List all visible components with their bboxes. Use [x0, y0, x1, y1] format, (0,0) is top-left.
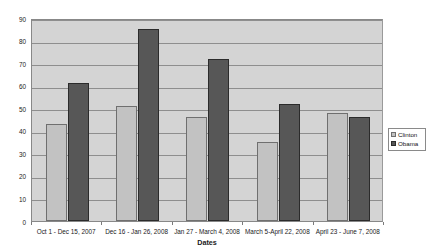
x-axis-tick-mark: [313, 222, 314, 225]
bar-chart: Percentage of Positive Coverage 90807060…: [0, 0, 427, 251]
y-axis-tick-label: 40: [19, 128, 26, 135]
y-axis-tick-label: 60: [19, 83, 26, 90]
x-axis-tick-mark: [101, 222, 102, 225]
legend-item-label: Clinton: [398, 131, 417, 138]
bar-group: [32, 20, 102, 221]
bar: [46, 124, 67, 221]
bar: [257, 142, 278, 221]
bar: [208, 59, 229, 221]
bar-group: [102, 20, 172, 221]
x-axis-title: Dates: [31, 238, 383, 247]
bar: [186, 117, 207, 221]
x-axis-category-label: Dec 16 - Jan 26, 2008: [101, 227, 171, 236]
bar-group: [243, 20, 313, 221]
y-axis-tick-labels: 9080706050403020100: [0, 0, 28, 251]
y-axis-tick-label: 10: [19, 196, 26, 203]
y-axis-tick-label: 20: [19, 173, 26, 180]
x-axis-tick-mark: [383, 222, 384, 225]
bar: [68, 83, 89, 221]
chart-legend: ClintonObama: [388, 128, 426, 151]
y-axis-tick-label: 90: [19, 16, 26, 23]
x-axis-category-label: March 5-April 22, 2008: [242, 227, 312, 236]
y-axis-tick-label: 70: [19, 61, 26, 68]
cropped-title-remnant: [0, 0, 427, 6]
legend-swatch-icon: [391, 141, 396, 146]
bar-group: [314, 20, 384, 221]
x-axis-category-label: April 23 - June 7, 2008: [313, 227, 383, 236]
y-axis-tick-label: 50: [19, 106, 26, 113]
x-axis-category-label: Oct 1 - Dec 15, 2007: [31, 227, 101, 236]
y-axis-tick-label: 30: [19, 151, 26, 158]
plot-area: [31, 19, 383, 222]
bar: [279, 104, 300, 221]
bar: [327, 113, 348, 221]
legend-item: Clinton: [391, 130, 423, 139]
bars-layer: [32, 20, 382, 221]
x-axis-tick-mark: [172, 222, 173, 225]
bar: [116, 106, 137, 221]
legend-item: Obama: [391, 139, 423, 148]
bar-group: [173, 20, 243, 221]
x-axis-category-label: Jan 27 - March 4, 2008: [172, 227, 242, 236]
y-axis-tick-label: 80: [19, 38, 26, 45]
bar: [349, 117, 370, 221]
legend-swatch-icon: [391, 132, 396, 137]
y-axis-tick-label: 0: [22, 219, 26, 226]
x-axis-tick-mark: [242, 222, 243, 225]
bar: [138, 29, 159, 221]
legend-item-label: Obama: [398, 140, 418, 147]
x-axis-tick-mark: [31, 222, 32, 225]
